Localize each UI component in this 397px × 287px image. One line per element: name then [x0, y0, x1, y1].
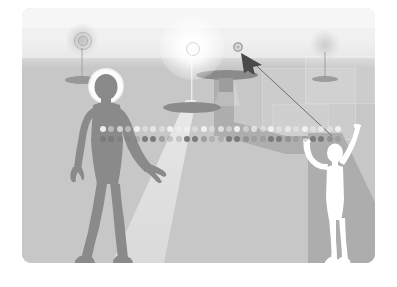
dotted-connection-line: [100, 126, 342, 146]
dot-light: [226, 126, 232, 132]
dark-figure: [66, 68, 184, 263]
dot-light: [209, 126, 215, 132]
dot-dark: [234, 136, 240, 142]
dot-dark: [209, 136, 215, 142]
dot-dark: [226, 136, 232, 142]
dot-light: [251, 126, 257, 132]
dot-dark: [293, 136, 299, 142]
left-lamp-ring-inner: [78, 36, 88, 46]
dot-dark: [134, 136, 140, 142]
dot-dark: [150, 136, 156, 142]
dot-light: [335, 126, 341, 132]
dot-light: [285, 126, 291, 132]
dot-dark: [192, 136, 198, 142]
dot-dark: [167, 136, 173, 142]
dot-dark: [125, 136, 131, 142]
dot-dark: [285, 136, 291, 142]
dot-dark: [310, 136, 316, 142]
dot-dark: [218, 136, 224, 142]
dot-dark: [117, 136, 123, 142]
dot-light: [192, 126, 198, 132]
dot-dark: [302, 136, 308, 142]
dot-dark: [159, 136, 165, 142]
dot-dark: [251, 136, 257, 142]
dot-light: [268, 126, 274, 132]
dot-dark: [260, 136, 266, 142]
dot-light: [310, 126, 316, 132]
dot-light: [234, 126, 240, 132]
dot-light: [184, 126, 190, 132]
target-orb-center: [237, 46, 240, 49]
dot-light: [134, 126, 140, 132]
dot-dark: [335, 136, 341, 142]
dot-light: [327, 126, 333, 132]
dot-dark: [201, 136, 207, 142]
dot-dark: [318, 136, 324, 142]
dot-light: [100, 126, 106, 132]
pointer-line: [246, 56, 332, 136]
dot-light: [176, 126, 182, 132]
dot-light: [218, 126, 224, 132]
illustration-stage: [0, 0, 397, 287]
center-lamp-pole: [191, 54, 192, 108]
dot-light: [142, 126, 148, 132]
illustration-frame: [22, 8, 375, 263]
dot-light: [150, 126, 156, 132]
dot-light: [167, 126, 173, 132]
dot-dark: [268, 136, 274, 142]
dot-dark: [108, 136, 114, 142]
dot-dark: [184, 136, 190, 142]
dot-light: [276, 126, 282, 132]
dot-light: [243, 126, 249, 132]
dot-light: [159, 126, 165, 132]
dot-light: [117, 126, 123, 132]
dot-dark: [327, 136, 333, 142]
dot-light: [201, 126, 207, 132]
dark-figure-body: [66, 68, 184, 263]
center-lamp-bulb: [186, 42, 200, 56]
dot-dark: [276, 136, 282, 142]
dot-light: [125, 126, 131, 132]
dot-light: [108, 126, 114, 132]
dot-dark: [243, 136, 249, 142]
dot-light: [302, 126, 308, 132]
dot-light: [260, 126, 266, 132]
dot-light: [318, 126, 324, 132]
dot-dark: [176, 136, 182, 142]
dot-light: [293, 126, 299, 132]
dot-dark: [142, 136, 148, 142]
arrow-cursor-icon[interactable]: [241, 53, 262, 75]
dot-dark: [100, 136, 106, 142]
